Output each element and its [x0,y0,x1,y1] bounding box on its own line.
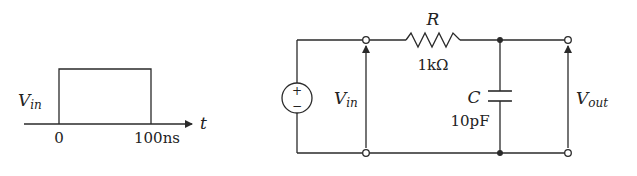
source-minus-sign: − [292,99,302,113]
capacitor-name-label: C [467,87,480,107]
tick-label-0: 0 [54,129,64,147]
vin-label: Vin [334,88,358,110]
resistor-zigzag [406,33,460,47]
output-terminal-top [565,37,572,44]
waveform-signal-label: Vin [18,90,42,112]
pulse-shape [59,69,151,124]
input-terminal-bottom [363,150,370,157]
source-plus-sign: + [292,84,302,98]
resistor-name-label: R [426,9,440,29]
junction-dot-top [498,38,503,43]
resistor-value-label: 1kΩ [417,56,448,74]
junction-dot-bottom [498,151,503,156]
vout-label: Vout [576,88,608,110]
diagram-canvas: Vin t 0 100ns [0,0,637,176]
input-terminal-top [363,37,370,44]
time-axis-label: t [200,113,207,133]
capacitor-value-label: 10pF [450,112,489,130]
pulse-waveform: Vin t 0 100ns [18,69,207,147]
output-terminal-bottom [565,150,572,157]
tick-label-100ns: 100ns [134,129,180,147]
rc-circuit [282,33,571,156]
